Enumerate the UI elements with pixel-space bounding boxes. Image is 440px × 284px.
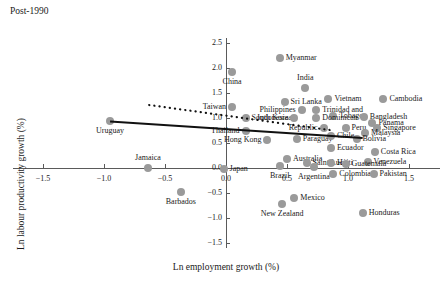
data-point[interactable]	[228, 103, 236, 111]
data-point[interactable]	[329, 170, 337, 178]
data-point[interactable]	[327, 132, 335, 140]
data-point[interactable]	[106, 117, 114, 125]
x-axis-tick	[104, 164, 105, 168]
y-axis-tick	[226, 218, 230, 219]
data-point-label: Republic	[289, 124, 318, 132]
y-axis-tick	[226, 43, 230, 44]
data-point[interactable]	[327, 144, 335, 152]
data-point-label: Guatemala	[352, 160, 387, 168]
y-axis-tick	[226, 93, 230, 94]
x-axis-tick-label: −1.0	[97, 175, 112, 183]
data-point-label: India	[297, 74, 313, 82]
data-point[interactable]	[298, 106, 306, 114]
y-axis-tick	[226, 193, 230, 194]
data-point-label: Indonesia	[257, 114, 288, 122]
data-point[interactable]	[353, 135, 361, 143]
y-axis-tick-label: 1.5	[200, 89, 222, 97]
data-point-label: Taiwan	[203, 103, 226, 111]
data-point-label: Japan	[230, 165, 248, 173]
data-point[interactable]	[359, 209, 367, 217]
y-axis-tick-label: 0.5	[200, 139, 222, 147]
data-point[interactable]	[290, 114, 298, 122]
y-axis-tick	[226, 243, 230, 244]
data-point-label: Myanmar	[286, 54, 317, 62]
y-axis-tick	[226, 118, 230, 119]
x-axis-tick-label: −0.5	[158, 175, 173, 183]
data-point[interactable]	[278, 200, 286, 208]
y-axis-tick-label: −1.0	[200, 214, 222, 222]
y-axis-tick-label: 1.0	[200, 114, 222, 122]
data-point-label: Argentina	[298, 173, 330, 181]
data-point-label: Hong Kong	[224, 136, 262, 144]
data-point[interactable]	[276, 162, 284, 170]
x-axis-tick	[409, 164, 410, 168]
data-point[interactable]	[360, 113, 368, 121]
data-point[interactable]	[263, 136, 271, 144]
data-point[interactable]	[370, 170, 378, 178]
x-axis-tick	[165, 164, 166, 168]
data-point-label: New Zealand	[261, 210, 304, 218]
data-point[interactable]	[242, 114, 250, 122]
data-point-label: Jamaica	[135, 154, 161, 162]
data-point[interactable]	[177, 188, 185, 196]
data-point-label: Dominican	[322, 114, 358, 122]
data-point[interactable]	[283, 155, 291, 163]
data-point-label: Pakistan	[380, 170, 407, 178]
x-axis-tick	[287, 164, 288, 168]
data-point-label: Ecuador	[337, 144, 364, 152]
data-point-label: Vietnam	[334, 95, 361, 103]
data-point-label: Thailand	[211, 127, 239, 135]
y-axis-tick-label: 2.0	[200, 64, 222, 72]
data-point[interactable]	[379, 95, 387, 103]
data-point[interactable]	[371, 148, 379, 156]
y-axis-title: Ln labour productivity growth (%)	[16, 118, 26, 250]
data-point[interactable]	[290, 194, 298, 202]
data-point[interactable]	[293, 135, 301, 143]
data-point[interactable]	[310, 163, 318, 171]
data-point[interactable]	[144, 164, 152, 172]
x-axis-tick	[43, 164, 44, 168]
data-point-label: Honduras	[369, 209, 400, 217]
x-axis-tick-label: 0.0	[221, 175, 231, 183]
data-point[interactable]	[324, 95, 332, 103]
data-point[interactable]	[327, 159, 335, 167]
data-point[interactable]	[276, 54, 284, 62]
data-point-label: Colombia	[339, 170, 371, 178]
data-point-label: Mexico	[300, 194, 324, 202]
data-point-label: Costa Rica	[381, 148, 416, 156]
data-point[interactable]	[220, 165, 228, 173]
data-point-label: China	[223, 78, 242, 86]
x-axis-title: Ln employment growth (%)	[173, 262, 279, 272]
data-point-label: Cambodia	[389, 95, 422, 103]
data-point[interactable]	[342, 160, 350, 168]
data-point[interactable]	[320, 124, 328, 132]
data-point-label: Barbados	[166, 198, 196, 206]
data-point[interactable]	[312, 106, 320, 114]
data-point-label: Chile	[337, 132, 354, 140]
y-axis-tick-label: 2.5	[200, 39, 222, 47]
x-axis-tick-label: −1.5	[36, 175, 51, 183]
data-point-label: Bolivia	[363, 135, 387, 143]
data-point-label: Uruguay	[96, 127, 124, 135]
y-axis-tick-label: −0.5	[200, 189, 222, 197]
data-point[interactable]	[301, 84, 309, 92]
data-point-label: Brazil	[270, 172, 290, 180]
data-point[interactable]	[312, 114, 320, 122]
y-axis-tick-label: 0.0	[200, 164, 222, 172]
y-axis-tick-label: −1.5	[200, 239, 222, 247]
data-point[interactable]	[242, 127, 250, 135]
data-point[interactable]	[228, 68, 236, 76]
